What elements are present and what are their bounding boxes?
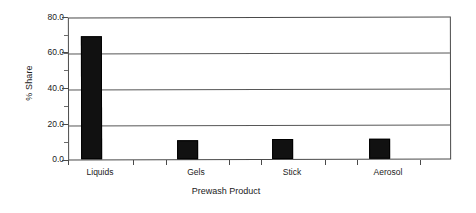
x-tick-mark [133, 160, 134, 165]
plot-area [68, 17, 451, 161]
x-tick-mark [325, 160, 326, 165]
x-tick-mark [261, 160, 262, 165]
x-tick-mark [420, 160, 421, 165]
x-tick-label-stick: Stick [242, 167, 342, 177]
gridline-20 [69, 125, 450, 127]
x-axis-title-text: Prewash Product [192, 186, 261, 196]
gridline-40 [69, 89, 450, 91]
y-axis-tick-labels: 80.0 60.0 40.0 20.0 0.0 [26, 0, 64, 213]
x-tick-label-liquids: Liquids [50, 167, 150, 177]
x-tick-label-gels: Gels [146, 167, 246, 177]
bar-liquids [81, 36, 102, 159]
gridline-60 [69, 53, 450, 55]
bar-stick [272, 139, 293, 159]
x-tick-mark [229, 160, 230, 165]
bar-chart: % Share 80.0 60.0 40.0 20.0 0.0 Liquids … [0, 0, 476, 213]
x-tick-mark [68, 160, 69, 165]
x-tick-mark [357, 160, 358, 165]
bar-aerosol [369, 139, 390, 159]
bar-gels [177, 140, 198, 159]
x-tick-label-aerosol: Aerosol [338, 167, 438, 177]
x-axis-title: Prewash Product [0, 186, 476, 196]
x-tick-mark [166, 160, 167, 165]
